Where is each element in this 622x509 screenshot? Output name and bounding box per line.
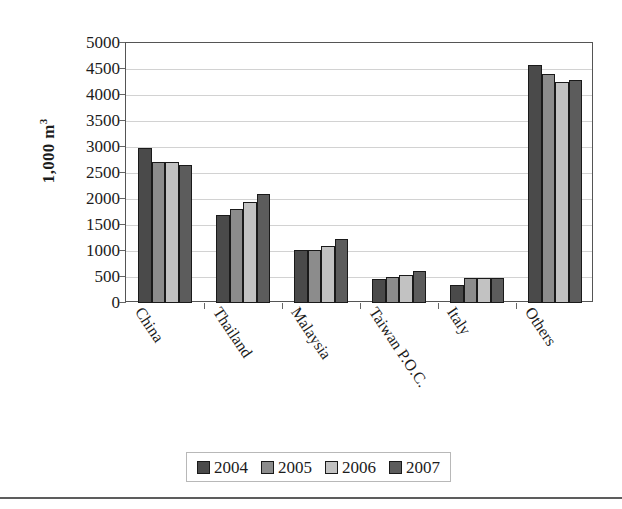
legend-item: 2004 (197, 459, 248, 476)
y-axis-tick-mark (119, 302, 126, 303)
legend-swatch (261, 461, 274, 474)
bar-group (204, 43, 282, 303)
bar (386, 277, 400, 303)
bar (399, 275, 413, 303)
legend-swatch (325, 461, 338, 474)
y-axis-tick-label: 4500 (58, 60, 120, 77)
bars-layer (126, 43, 594, 303)
bar-group (282, 43, 360, 303)
bar (450, 285, 464, 303)
bar-group (126, 43, 204, 303)
bar-group (438, 43, 516, 303)
legend-swatch (197, 461, 210, 474)
bar-group (360, 43, 438, 303)
bar (216, 215, 230, 303)
bar (179, 165, 193, 303)
bar (542, 74, 556, 303)
bar (555, 82, 569, 303)
bar (230, 209, 244, 303)
y-axis-tick-label: 500 (58, 268, 120, 285)
bar (294, 250, 308, 303)
legend-label: 2005 (278, 459, 312, 476)
bar-group (516, 43, 594, 303)
legend-item: 2005 (261, 459, 312, 476)
legend-label: 2007 (406, 459, 440, 476)
bar-chart-figure: 1,000 m3 0500100015002000250030003500400… (0, 0, 622, 509)
bar (528, 65, 542, 303)
y-axis-tick-labels: 0500100015002000250030003500400045005000 (58, 42, 120, 302)
bar (335, 239, 349, 303)
chart-legend: 2004200520062007 (186, 452, 451, 482)
legend-swatch (389, 461, 402, 474)
legend-label: 2006 (342, 459, 376, 476)
legend-label: 2004 (214, 459, 248, 476)
x-axis-category-label: Italy (443, 304, 474, 338)
bar (491, 278, 505, 303)
y-axis-tick-label: 0 (58, 294, 120, 311)
x-axis-category-label: China (131, 304, 167, 346)
plot-area (125, 42, 593, 302)
bar (243, 202, 257, 303)
y-axis-title: 1,000 m3 (37, 81, 59, 221)
y-axis-tick-label: 5000 (58, 34, 120, 51)
x-axis-category-label: Thailand (209, 304, 256, 361)
bar (372, 279, 386, 303)
y-axis-tick-label: 1000 (58, 242, 120, 259)
bar (477, 278, 491, 303)
bottom-divider-rule (0, 497, 622, 499)
bar (165, 162, 179, 303)
y-axis-tick-label: 4000 (58, 86, 120, 103)
bar (569, 80, 583, 303)
bar (138, 148, 152, 303)
bar (464, 278, 478, 303)
y-axis-tick-label: 2000 (58, 190, 120, 207)
y-axis-title-superscript: 3 (37, 119, 49, 125)
bar (152, 162, 166, 303)
bar (308, 250, 322, 303)
legend-item: 2007 (389, 459, 440, 476)
x-axis-category-label: Taiwan P.O.C. (365, 304, 431, 391)
x-axis-category-label: Others (521, 304, 560, 349)
x-axis-category-labels: ChinaThailandMalaysiaTaiwan P.O.C.ItalyO… (125, 304, 593, 414)
x-axis-category-label: Malaysia (287, 304, 335, 363)
bar (257, 194, 271, 303)
y-axis-tick-label: 3000 (58, 138, 120, 155)
y-axis-tick-label: 2500 (58, 164, 120, 181)
bar (321, 246, 335, 303)
y-axis-title-base: 1,000 m (39, 124, 58, 183)
y-axis-tick-label: 1500 (58, 216, 120, 233)
legend-item: 2006 (325, 459, 376, 476)
bar (413, 271, 427, 303)
y-axis-tick-label: 3500 (58, 112, 120, 129)
